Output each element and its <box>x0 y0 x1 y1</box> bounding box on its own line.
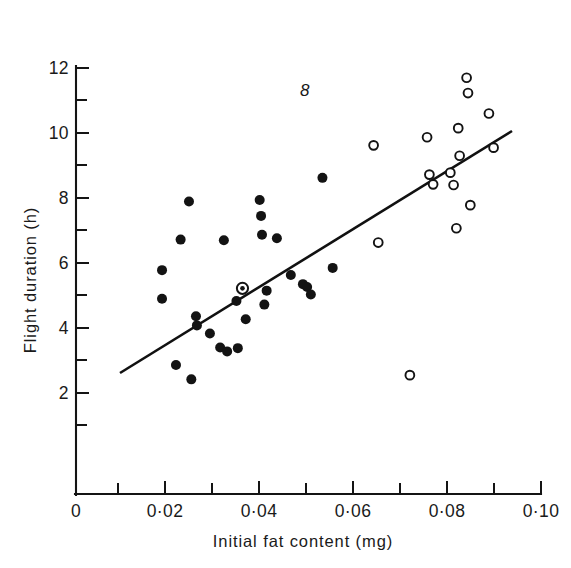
data-point-open <box>425 170 434 179</box>
x-axis-title: Initial fat content (mg) <box>213 532 393 550</box>
x-axis-tick-labels: 0 0·02 0·04 0·06 0·08 0·10 <box>71 501 559 521</box>
x-tick-label-0p06: 0·06 <box>335 501 372 521</box>
data-point-filled <box>192 320 202 330</box>
data-points-layer <box>157 73 498 384</box>
data-point-open <box>374 238 383 247</box>
axes-group <box>75 66 541 495</box>
data-point-filled <box>306 290 316 300</box>
data-point-filled <box>259 300 269 310</box>
data-point-filled <box>255 195 265 205</box>
data-point-filled <box>328 263 338 273</box>
x-tick-label-0p08: 0·08 <box>429 501 466 521</box>
data-point-filled <box>191 311 201 321</box>
data-point-filled <box>317 173 327 183</box>
data-point-open <box>423 133 432 142</box>
data-point-filled <box>241 314 251 324</box>
data-point-open <box>449 181 458 190</box>
data-point-filled <box>184 197 194 207</box>
data-point-open <box>454 124 463 133</box>
data-point-filled <box>272 233 282 243</box>
x-tick-label-0p02: 0·02 <box>147 501 184 521</box>
data-point-filled <box>205 329 215 339</box>
y-tick-label-6: 6 <box>59 253 69 273</box>
data-point-open <box>462 73 471 82</box>
data-point-filled <box>171 360 181 370</box>
scatter-plot-canvas: 12 10 8 6 4 2 0 0·02 0·04 0·06 <box>0 0 571 568</box>
y-tick-label-10: 10 <box>49 123 69 143</box>
data-point-centroid-dot <box>240 286 245 291</box>
data-point-open <box>466 201 475 210</box>
data-point-open <box>489 143 498 152</box>
figure-root: 12 10 8 6 4 2 0 0·02 0·04 0·06 <box>0 0 571 568</box>
data-point-open <box>369 141 378 150</box>
data-point-filled <box>233 343 243 353</box>
x-tick-label-0p10: 0·10 <box>523 501 560 521</box>
data-point-open <box>455 151 464 160</box>
y-tick-label-2: 2 <box>59 383 69 403</box>
data-point-open <box>464 89 473 98</box>
x-tick-label-0p04: 0·04 <box>241 501 278 521</box>
x-axis-ticks <box>76 481 541 494</box>
y-tick-label-12: 12 <box>49 58 69 78</box>
y-axis-tick-labels: 12 10 8 6 4 2 <box>49 58 69 403</box>
regression-line <box>120 131 512 373</box>
x-tick-label-0: 0 <box>71 501 81 521</box>
data-point-open <box>446 168 455 177</box>
data-point-filled <box>222 346 232 356</box>
data-point-filled <box>186 374 196 384</box>
data-point-filled <box>257 230 267 240</box>
data-point-filled <box>157 294 167 304</box>
figure-number-label: 8 <box>300 81 310 100</box>
data-point-open <box>485 109 494 118</box>
y-tick-label-4: 4 <box>59 318 69 338</box>
data-point-filled <box>157 265 167 275</box>
data-point-open <box>452 224 461 233</box>
data-point-filled <box>176 235 186 245</box>
data-point-filled <box>219 235 229 245</box>
data-point-open <box>429 180 438 189</box>
data-point-filled <box>256 211 266 221</box>
data-point-filled <box>262 286 272 296</box>
y-axis-ticks <box>76 68 89 425</box>
data-point-open <box>405 371 414 380</box>
y-tick-label-8: 8 <box>59 188 69 208</box>
data-point-filled <box>286 270 296 280</box>
y-axis-title: Flight duration (h) <box>21 207 39 353</box>
data-point-filled <box>231 296 241 306</box>
